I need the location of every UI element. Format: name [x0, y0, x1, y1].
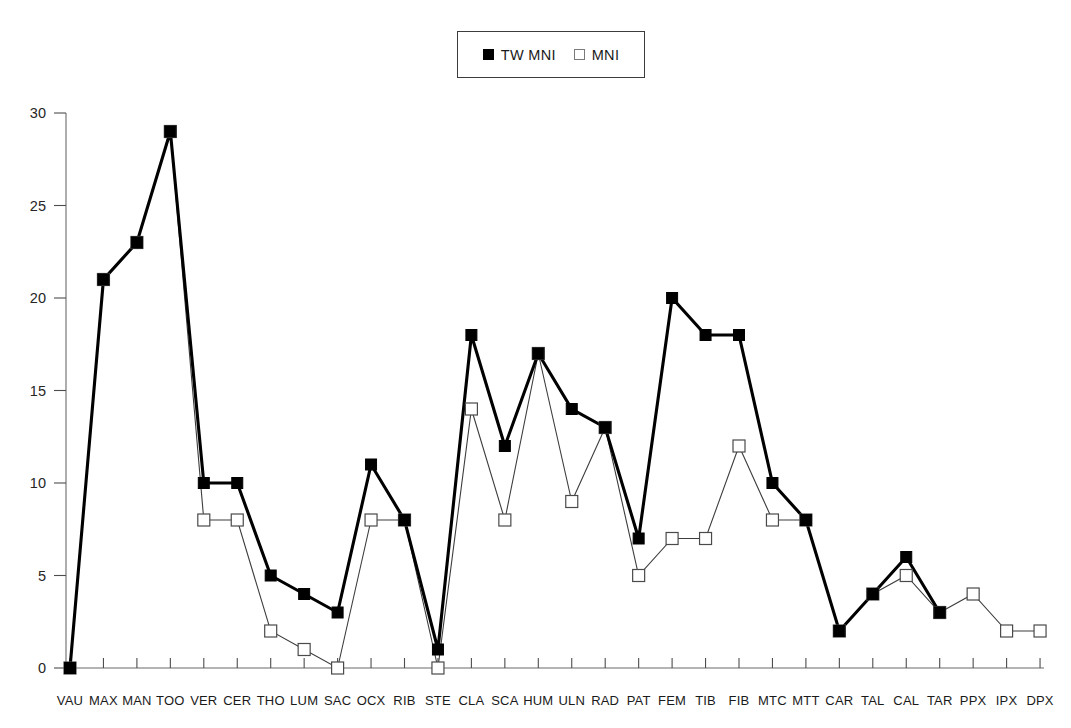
data-point-tw-mni: [600, 422, 611, 433]
series-line-tw-mni: [70, 132, 940, 669]
data-point-mni: [298, 644, 310, 656]
x-tick-label: TAR: [927, 693, 953, 708]
data-point-mni: [733, 440, 745, 452]
x-tick-label: MTC: [758, 693, 787, 708]
x-tick-label: MTT: [792, 693, 819, 708]
x-tick-label: DPX: [1026, 693, 1053, 708]
x-tick-label: LUM: [290, 693, 318, 708]
data-point-tw-mni: [265, 570, 276, 581]
x-tick-label: FEM: [658, 693, 686, 708]
data-point-mni: [766, 514, 778, 526]
y-axis: 051015202530: [30, 105, 66, 676]
data-point-tw-mni: [533, 348, 544, 359]
x-tick-label: THO: [257, 693, 285, 708]
data-point-mni: [198, 514, 210, 526]
x-tick-label: CAL: [893, 693, 919, 708]
data-point-mni: [499, 514, 511, 526]
x-tick-label: IPX: [996, 693, 1018, 708]
data-point-tw-mni: [734, 330, 745, 341]
data-point-tw-mni: [667, 293, 678, 304]
data-point-tw-mni: [466, 330, 477, 341]
data-point-tw-mni: [198, 478, 209, 489]
x-tick-label: MAX: [89, 693, 118, 708]
data-point-mni: [967, 588, 979, 600]
x-tick-label: VER: [190, 693, 217, 708]
data-point-tw-mni: [299, 589, 310, 600]
data-point-tw-mni: [98, 274, 109, 285]
y-tick-label: 30: [30, 105, 46, 121]
data-point-mni: [900, 570, 912, 582]
x-tick-label: OCX: [357, 693, 386, 708]
y-tick-label: 15: [30, 383, 46, 399]
data-point-mni: [700, 533, 712, 545]
data-point-mni: [365, 514, 377, 526]
chart-plot-area: 051015202530 VAUMAXMANTOOVERCERTHOLUMSAC…: [0, 0, 1071, 728]
x-tick-label: TAL: [861, 693, 884, 708]
y-tick-label: 0: [38, 660, 46, 676]
data-point-tw-mni: [232, 478, 243, 489]
data-point-tw-mni: [767, 478, 778, 489]
x-tick-label: MAN: [122, 693, 152, 708]
x-tick-label: PAT: [627, 693, 651, 708]
data-point-tw-mni: [800, 515, 811, 526]
data-point-tw-mni: [131, 237, 142, 248]
y-tick-label: 10: [30, 475, 46, 491]
x-tick-label: SAC: [324, 693, 351, 708]
data-point-tw-mni: [65, 663, 76, 674]
data-point-mni: [332, 662, 344, 674]
data-point-mni: [566, 496, 578, 508]
x-tick-label: SCA: [491, 693, 518, 708]
data-point-tw-mni: [366, 459, 377, 470]
x-tick-label: FIB: [729, 693, 750, 708]
y-tick-label: 25: [30, 198, 46, 214]
data-point-tw-mni: [633, 533, 644, 544]
x-tick-label: TOO: [156, 693, 185, 708]
data-point-tw-mni: [566, 404, 577, 415]
data-point-tw-mni: [901, 552, 912, 563]
y-tick-label: 5: [38, 568, 46, 584]
data-point-tw-mni: [432, 644, 443, 655]
x-tick-label: VAU: [57, 693, 83, 708]
data-point-tw-mni: [867, 589, 878, 600]
data-point-tw-mni: [700, 330, 711, 341]
data-point-tw-mni: [399, 515, 410, 526]
data-point-mni: [1034, 625, 1046, 637]
data-point-tw-mni: [165, 126, 176, 137]
x-tick-label: RIB: [393, 693, 415, 708]
data-point-mni: [432, 662, 444, 674]
y-tick-label: 20: [30, 290, 46, 306]
data-point-mni: [265, 625, 277, 637]
x-tick-label: ULN: [558, 693, 585, 708]
data-point-tw-mni: [934, 607, 945, 618]
x-tick-label: PPX: [960, 693, 987, 708]
data-point-mni: [1001, 625, 1013, 637]
data-point-mni: [465, 403, 477, 415]
data-point-mni: [231, 514, 243, 526]
x-tick-label: STE: [425, 693, 451, 708]
data-point-mni: [666, 533, 678, 545]
series-line-mni: [70, 132, 1040, 669]
data-point-mni: [633, 570, 645, 582]
data-point-tw-mni: [834, 626, 845, 637]
x-tick-label: HUM: [523, 693, 553, 708]
chart-series-group: [64, 126, 1046, 675]
data-point-tw-mni: [499, 441, 510, 452]
x-tick-label: CER: [223, 693, 251, 708]
x-axis: VAUMAXMANTOOVERCERTHOLUMSACOCXRIBSTECLAS…: [57, 658, 1054, 708]
x-tick-label: CAR: [825, 693, 853, 708]
x-tick-label: RAD: [591, 693, 619, 708]
x-tick-label: TIB: [695, 693, 716, 708]
data-point-tw-mni: [332, 607, 343, 618]
x-tick-label: CLA: [458, 693, 484, 708]
chart-container: TW MNI MNI 051015202530 VAUMAXMANTOOVERC…: [0, 0, 1071, 728]
